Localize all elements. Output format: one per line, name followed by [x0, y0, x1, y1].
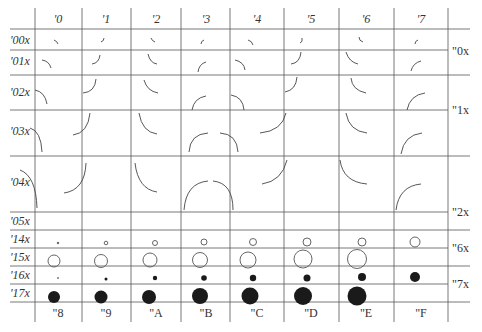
row-header-00x: '00x [10, 34, 30, 46]
column-header-2: '2 [152, 13, 161, 25]
row-header-14x: '14x [10, 233, 30, 245]
column-header-5: '5 [307, 13, 316, 25]
column-header-3: '3 [202, 13, 211, 25]
bottom-header-C: "C [251, 307, 264, 319]
bottom-header-8: "8 [53, 307, 64, 319]
row-header-04x: '04x [10, 176, 30, 188]
arc-glyphs [20, 37, 425, 210]
column-header-7: '7 [417, 13, 426, 25]
row-header-01x: '01x [10, 55, 30, 67]
filled-dot-glyphs [48, 272, 420, 306]
bottom-header-B: "B [200, 307, 213, 319]
right-header-7x: "7x [452, 278, 469, 290]
bottom-header-A: "A [149, 307, 163, 319]
grid-lines [10, 8, 470, 322]
column-header-4: '4 [253, 13, 262, 25]
bottom-header-E: "E [360, 307, 372, 319]
row-header-17x: '17x [10, 287, 30, 299]
bottom-header-9: "9 [101, 307, 112, 319]
right-header-1x: "1x [452, 104, 469, 116]
row-header-03x: '03x [10, 125, 30, 137]
column-header-0: '0 [54, 13, 63, 25]
row-header-16x: '16x [10, 269, 30, 281]
right-header-6x: "6x [452, 242, 469, 254]
row-header-15x: '15x [10, 251, 30, 263]
font-character-table [0, 0, 482, 332]
right-header-0x: "0x [452, 45, 469, 57]
right-header-2x: "2x [452, 206, 469, 218]
bottom-header-D: "D [304, 307, 318, 319]
bottom-header-F: "F [415, 307, 427, 319]
row-header-05x: '05x [10, 215, 30, 227]
open-circle-glyphs [48, 237, 420, 269]
row-header-02x: '02x [10, 86, 30, 98]
column-header-1: '1 [102, 13, 111, 25]
column-header-6: '6 [362, 13, 371, 25]
